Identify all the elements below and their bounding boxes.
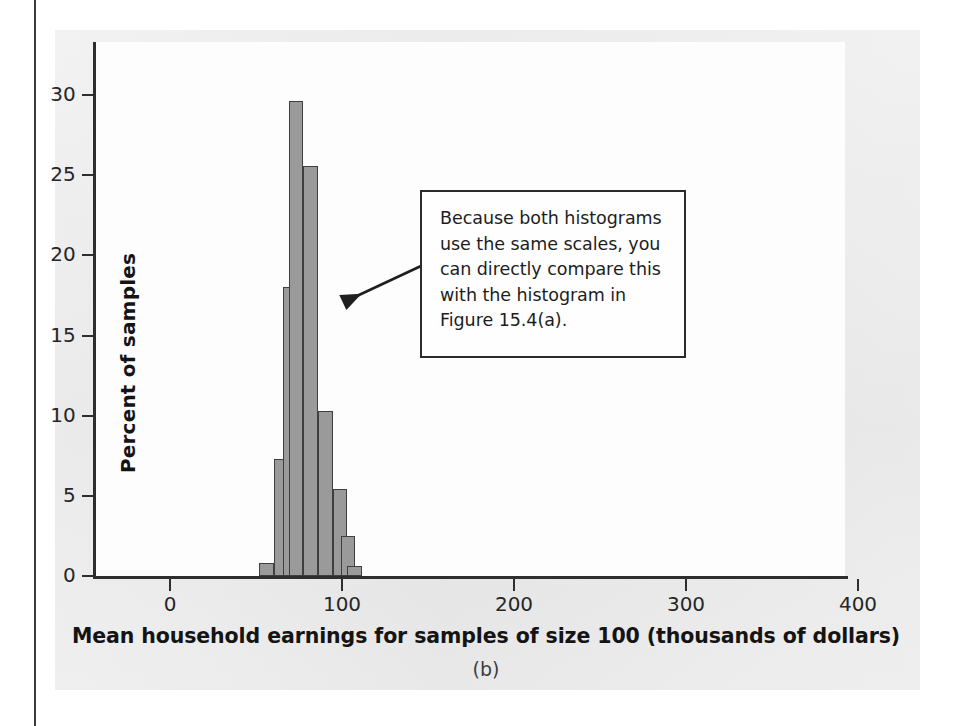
y-tick-label: 0 (32, 563, 76, 587)
y-tick-mark (82, 94, 93, 96)
page-margin-rule (34, 0, 36, 726)
y-axis-line (93, 42, 96, 576)
histogram-bar (347, 566, 362, 576)
annotation-line-3: with the histogram in (440, 283, 670, 309)
y-tick-mark (82, 575, 93, 577)
y-tick-label: 30 (32, 82, 76, 106)
panel-caption: (b) (0, 658, 972, 680)
y-tick-label: 20 (32, 242, 76, 266)
annotation-line-4: Figure 15.4(a). (440, 308, 670, 334)
annotation-line-0: Because both histograms (440, 206, 670, 232)
x-tick-label: 100 (297, 592, 387, 616)
x-tick-label: 300 (641, 592, 731, 616)
y-tick-label: 15 (32, 323, 76, 347)
y-axis-label: Percent of samples (116, 253, 140, 473)
annotation-line-1: use the same scales, you (440, 232, 670, 258)
y-tick-mark (82, 335, 93, 337)
y-tick-label: 5 (32, 483, 76, 507)
histogram-bar (259, 563, 274, 576)
histogram-bar (318, 411, 333, 576)
y-tick-mark (82, 415, 93, 417)
annotation-line-2: can directly compare this (440, 257, 670, 283)
y-tick-mark (82, 495, 93, 497)
y-tick-mark (82, 174, 93, 176)
x-tick-mark (685, 579, 687, 591)
y-tick-label: 10 (32, 403, 76, 427)
x-tick-mark (169, 579, 171, 591)
x-tick-mark (513, 579, 515, 591)
annotation-callout: Because both histograms use the same sca… (420, 190, 686, 358)
x-tick-label: 200 (469, 592, 559, 616)
x-axis-line (93, 576, 848, 579)
x-tick-mark (857, 579, 859, 591)
y-tick-mark (82, 254, 93, 256)
histogram-bar (289, 101, 304, 576)
histogram-bar (303, 166, 318, 576)
x-tick-label: 0 (125, 592, 215, 616)
x-axis-label: Mean household earnings for samples of s… (0, 624, 972, 648)
figure-stage: 051015202530 0100200300400 Percent of sa… (0, 0, 972, 726)
x-tick-label: 400 (813, 592, 903, 616)
x-tick-mark (341, 579, 343, 591)
y-tick-label: 25 (32, 162, 76, 186)
